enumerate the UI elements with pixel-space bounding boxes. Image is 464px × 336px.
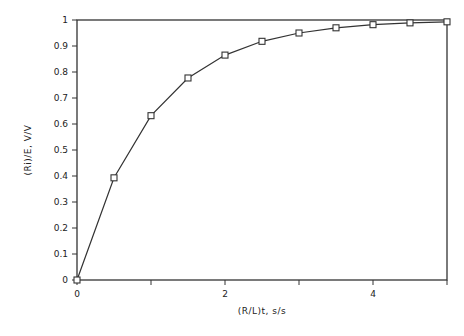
square-marker bbox=[444, 19, 450, 25]
plot-frame bbox=[77, 20, 447, 280]
y-tick-label: 0.5 bbox=[54, 145, 68, 155]
square-marker bbox=[333, 25, 339, 31]
square-marker bbox=[222, 52, 228, 58]
y-tick-label: 0.2 bbox=[54, 223, 68, 233]
y-tick-label: 1 bbox=[62, 15, 68, 25]
data-series bbox=[74, 19, 450, 283]
square-marker bbox=[407, 20, 413, 26]
y-tick-label: 0.1 bbox=[54, 249, 68, 259]
square-marker bbox=[296, 30, 302, 36]
y-tick-label: 0.4 bbox=[54, 171, 69, 181]
x-tick-label: 4 bbox=[370, 289, 376, 299]
x-axis-label: (R/L)t, s/s bbox=[238, 306, 286, 316]
y-axis-ticks: 00.10.20.30.40.50.60.70.80.91 bbox=[54, 15, 77, 285]
square-marker bbox=[111, 175, 117, 181]
x-tick-label: 0 bbox=[74, 289, 80, 299]
series-line bbox=[77, 22, 447, 280]
square-marker bbox=[74, 277, 80, 283]
y-tick-label: 0.7 bbox=[54, 93, 68, 103]
y-tick-label: 0 bbox=[62, 275, 68, 285]
square-marker bbox=[259, 38, 265, 44]
x-tick-label: 2 bbox=[222, 289, 228, 299]
square-marker bbox=[370, 22, 376, 28]
y-axis-label: (Ri)/E, V/V bbox=[23, 124, 33, 175]
x-axis-ticks: 024 bbox=[74, 280, 447, 299]
y-tick-label: 0.8 bbox=[54, 67, 69, 77]
square-marker bbox=[148, 113, 154, 119]
y-tick-label: 0.6 bbox=[54, 119, 69, 129]
square-marker bbox=[185, 75, 191, 81]
line-chart: 00.10.20.30.40.50.60.70.80.91 024 (R/L)t… bbox=[0, 0, 464, 336]
plot-border bbox=[77, 20, 447, 280]
y-tick-label: 0.3 bbox=[54, 197, 68, 207]
y-tick-label: 0.9 bbox=[54, 41, 69, 51]
